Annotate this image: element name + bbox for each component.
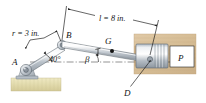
mechanism-figure: r = 3 in. l = 8 in. 40° β A B G D P (0, 0, 206, 103)
rod-length-label: l = 8 in. (99, 14, 125, 23)
piston-pin-d-label: D (123, 88, 131, 98)
rod-angle-label: β (84, 54, 90, 64)
center-of-mass-marker (110, 49, 114, 53)
ground-block (11, 78, 61, 91)
center-of-mass-g-label: G (105, 36, 112, 46)
pivot-a-label: A (11, 57, 18, 67)
crank-angle-label: 40° (49, 55, 61, 64)
crank-radius-label: r = 3 in. (12, 29, 39, 38)
applied-force-p-label: P (177, 53, 184, 63)
crank-pin-b-label: B (66, 30, 72, 40)
mechanism-diagram-svg: r = 3 in. l = 8 in. 40° β A B G D P (0, 0, 206, 103)
pivot-joint-a (20, 64, 31, 75)
